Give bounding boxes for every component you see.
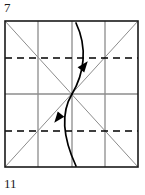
fold-arrow-lower-head	[54, 112, 64, 123]
origami-crease-diagram	[0, 0, 145, 195]
fold-arrow-lower	[65, 94, 76, 166]
step-number-bottom: 11	[4, 177, 17, 190]
